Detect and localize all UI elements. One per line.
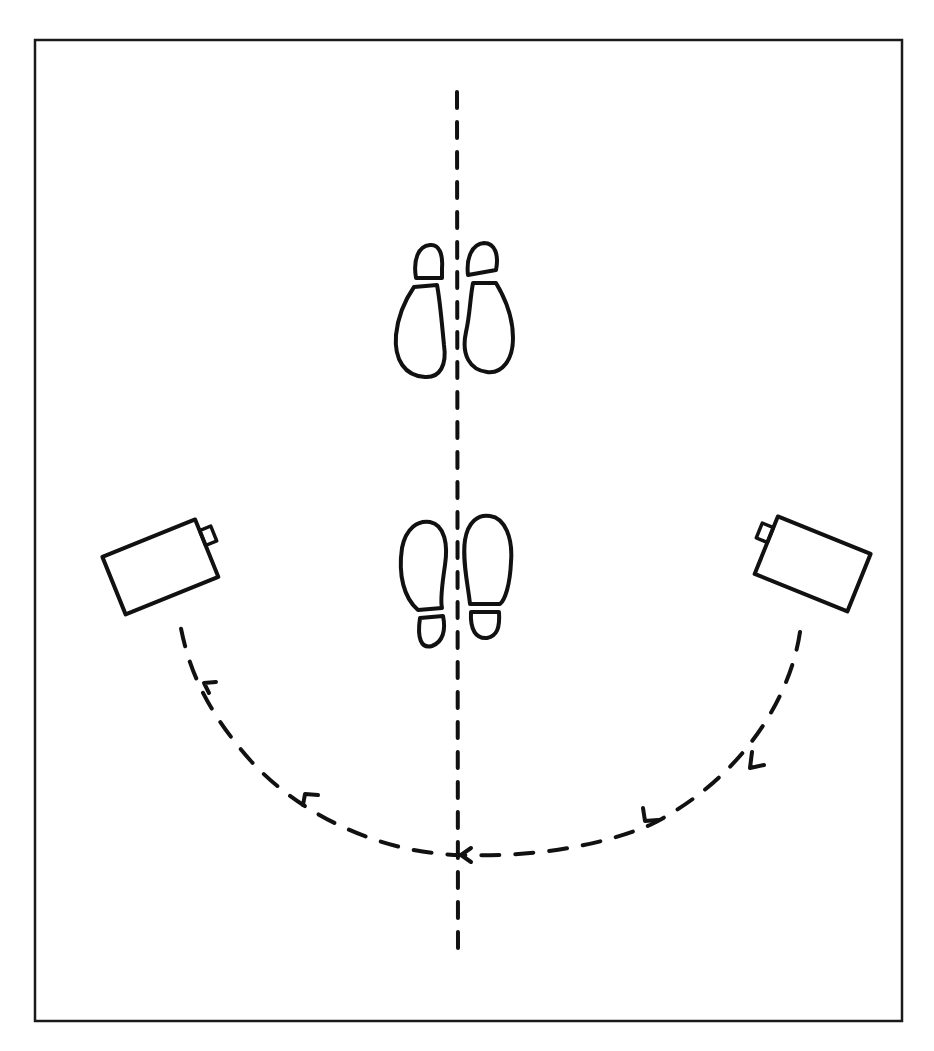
camera-arc-path: [180, 623, 800, 855]
arrowhead-icon: [204, 682, 216, 693]
arc-arrowheads: [204, 682, 764, 862]
center-dashed-line: [457, 92, 458, 955]
arrowhead-icon: [303, 794, 318, 805]
footprint-right-lower-icon: [464, 516, 511, 638]
diagram-canvas: [0, 0, 934, 1051]
footprint-left-upper-icon: [396, 245, 445, 377]
footprint-left-lower-icon: [401, 522, 446, 647]
arrowhead-icon: [750, 752, 764, 768]
upper-footprints: [396, 243, 513, 377]
right-camera-icon: [744, 512, 871, 611]
arrowhead-icon: [643, 808, 658, 821]
left-camera-icon: [102, 515, 229, 614]
footprint-right-upper-icon: [465, 243, 513, 372]
